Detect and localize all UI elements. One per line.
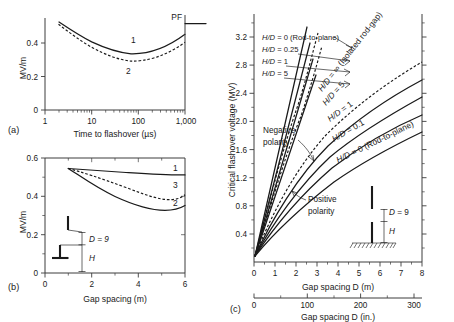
panel-b-xtick-0: 0 xyxy=(43,280,48,289)
panel-a-ytick-0: 0 xyxy=(33,106,38,115)
panel-a-x-axis-label: Time to flashover (µs) xyxy=(74,129,157,139)
panel-c-x-axis-inches: 0 100 200 300 xyxy=(252,294,422,311)
panel-b-plot: 0 0.2 0.4 0.6 0 2 4 6 xyxy=(0,140,228,322)
panel-b-curve-label-1: 1 xyxy=(173,163,178,173)
panel-c-inset-diagram: D = 9 H xyxy=(350,186,409,248)
panel-c-xtick-in-0: 0 xyxy=(252,301,257,310)
panel-b-tag: (b) xyxy=(8,282,19,292)
panel-c-legend-label-2: H/D = 1 xyxy=(262,57,288,66)
panel-c-legend-label-1: H/D = 0.25 xyxy=(262,45,299,54)
panel-c-inset-ground-hatching xyxy=(350,243,396,248)
panel-b-x-axis-label: Gap spacing (m) xyxy=(83,294,147,304)
panel-a-xtick-2: 100 xyxy=(131,117,145,126)
panel-c-y-ticks: 0.4 0.8 1.2 1.6 2.0 2.4 2.8 3.2 xyxy=(236,23,254,248)
panel-c-right-y-ticks xyxy=(422,23,427,248)
panel-c-curve-label-hdinf: H/D = ∞ (Isolated rod-gap) xyxy=(316,9,385,93)
panel-b-ytick-0: 0 xyxy=(33,269,38,278)
panel-c-negative-polarity-line2: polarity xyxy=(263,138,290,147)
panel-c-x-ticks-meters: 0 1 2 3 4 5 6 7 8 xyxy=(252,262,425,278)
panel-c-legend-label-3: H/D = 5 xyxy=(262,69,288,78)
panel-c-xtick-in-2: 200 xyxy=(354,301,368,310)
panel-b-ytick-3: 0.6 xyxy=(27,154,39,163)
panel-a-xtick-3: 1,000 xyxy=(176,117,197,126)
panel-a-plot: 0 0.2 0.4 xyxy=(0,0,228,140)
panel-b: 0 0.2 0.4 0.6 0 2 4 6 xyxy=(0,140,228,322)
panel-b-curve-3 xyxy=(68,169,185,200)
panel-c-xtick-in-1: 100 xyxy=(300,301,314,310)
panel-b-curve-label-2: 2 xyxy=(173,198,178,208)
panel-b-inset-gap-label: D = 9 xyxy=(89,235,109,244)
panel-c-x-axis-label-2: Gap spacing D (in.) xyxy=(301,312,375,322)
panel-a-curve-label-2: 2 xyxy=(126,66,131,76)
panel-a-y-ticks: 0 0.2 0.4 xyxy=(27,39,45,115)
panel-a: 0 0.2 0.4 xyxy=(0,0,228,140)
panel-c-ytick-6: 2.8 xyxy=(236,61,248,70)
panel-c-xtick-m-2: 2 xyxy=(294,269,299,278)
panel-a-xtick-0: 1 xyxy=(43,117,48,126)
panel-c-xtick-m-0: 0 xyxy=(252,269,257,278)
panel-c-ytick-3: 1.6 xyxy=(236,146,248,155)
panel-b-y-axis-label: MV/m xyxy=(18,211,28,233)
panel-c-xtick-m-7: 7 xyxy=(399,269,404,278)
panel-b-ytick-1: 0.2 xyxy=(27,231,39,240)
panel-a-tag: (a) xyxy=(8,125,19,135)
panel-b-inset-height-label: H xyxy=(89,254,95,263)
panel-c-xtick-m-1: 1 xyxy=(273,269,278,278)
panel-b-inset-diagram: D = 9 H xyxy=(52,216,109,272)
panel-a-y-axis-label: MV/m xyxy=(18,57,28,79)
panel-c-ytick-4: 2.0 xyxy=(236,117,248,126)
panel-c-inset-gap-label: D = 9 xyxy=(389,208,409,217)
panel-a-ytick-2: 0.4 xyxy=(27,39,39,48)
panel-c-curve-label-hd01: H/D = 0.1 xyxy=(330,117,366,144)
panel-c-neg-curve-hd1 xyxy=(255,59,313,256)
panel-c-annotation-positive: Positive polarity xyxy=(292,191,337,216)
panel-c-tag: (c) xyxy=(230,304,241,314)
panel-b-curve-label-3: 3 xyxy=(173,180,178,190)
panel-b-xtick-2: 4 xyxy=(136,280,141,289)
panel-c-neg-curve-hd5 xyxy=(255,75,316,256)
panel-a-pf-marker: PF xyxy=(171,12,206,110)
panel-c-plot: 0.4 0.8 1.2 1.6 2.0 2.4 2.8 3.2 xyxy=(226,0,454,322)
panel-a-pf-label: PF xyxy=(171,12,182,22)
panel-c-ytick-7: 3.2 xyxy=(236,33,248,42)
panel-c-ytick-0: 0.4 xyxy=(236,230,248,239)
panel-c-xtick-m-6: 6 xyxy=(378,269,383,278)
panel-c-xtick-m-4: 4 xyxy=(336,269,341,278)
panel-a-ytick-1: 0.2 xyxy=(27,73,39,82)
figure-container: 0 0.2 0.4 xyxy=(0,0,454,322)
panel-c-positive-polarity-line2: polarity xyxy=(308,207,335,216)
panel-b-x-ticks: 0 2 4 6 xyxy=(43,158,188,289)
panel-a-curve-label-1: 1 xyxy=(131,35,136,45)
panel-b-y-ticks: 0 0.2 0.4 0.6 xyxy=(27,154,45,278)
panel-c-ytick-2: 1.2 xyxy=(236,174,248,183)
panel-a-x-ticks: 1 10 100 1,000 xyxy=(43,110,197,126)
panel-c-legend-label-0: H/DH/D = 0 (Rod-to-plane) = 0 (Rod-to-pl… xyxy=(262,33,339,42)
panel-a-curve-2 xyxy=(59,24,186,61)
panel-c-negative-polarity-line1: Negative xyxy=(263,126,296,135)
panel-c-ytick-1: 0.8 xyxy=(236,202,248,211)
panel-b-xtick-1: 2 xyxy=(89,280,94,289)
panel-a-xtick-1: 10 xyxy=(87,117,97,126)
panel-c-xtick-m-8: 8 xyxy=(420,269,425,278)
panel-c-xtick-m-3: 3 xyxy=(315,269,320,278)
panel-b-ytick-2: 0.4 xyxy=(27,192,39,201)
panel-c-inset-height-label: H xyxy=(389,227,395,236)
panel-c-y-axis-label: Critical flashover voltage (MV) xyxy=(227,83,237,198)
panel-c-xtick-m-5: 5 xyxy=(357,269,362,278)
panel-c-positive-polarity-line1: Positive xyxy=(308,195,337,204)
panel-b-xtick-3: 6 xyxy=(183,280,188,289)
panel-c-xtick-in-3: 300 xyxy=(407,301,421,310)
panel-c-x-axis-label: Gap spacing D (m) xyxy=(302,282,374,292)
panel-c-ytick-5: 2.4 xyxy=(236,89,248,98)
panel-c: 0.4 0.8 1.2 1.6 2.0 2.4 2.8 3.2 xyxy=(226,0,454,322)
